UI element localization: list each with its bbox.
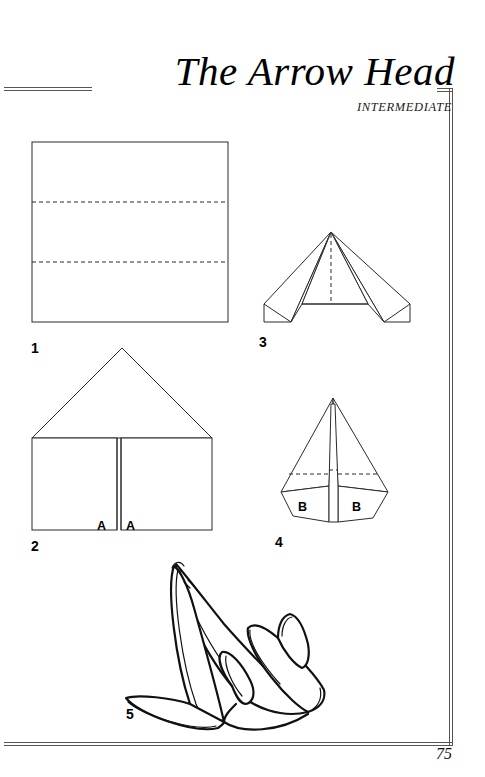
step-2-diagram	[30, 344, 230, 534]
figure-step-2	[30, 344, 230, 534]
page-number: 75	[396, 745, 452, 763]
step-number-5: 5	[126, 706, 134, 722]
center-curl-tail	[224, 704, 236, 722]
frame-border-bottom	[4, 742, 452, 746]
figure-step-3	[258, 228, 418, 328]
right-panel	[121, 438, 212, 530]
origami-instruction-page: The Arrow Head INTERMEDIATE 1 A A 2	[0, 0, 485, 777]
step-number-3: 3	[259, 334, 267, 350]
fold-label-a-left: A	[97, 519, 106, 533]
step-number-4: 4	[275, 534, 283, 550]
step-5-diagram	[112, 552, 342, 734]
figure-step-1	[30, 140, 230, 326]
step-number-2: 2	[31, 538, 39, 554]
figure-step-5	[112, 552, 342, 734]
difficulty-label: INTERMEDIATE	[0, 100, 452, 115]
right-wing	[333, 398, 388, 492]
fold-label-b-right: B	[352, 500, 361, 514]
figure-step-4	[272, 394, 397, 524]
page-title: The Arrow Head	[0, 48, 455, 94]
roof-triangle	[32, 348, 212, 438]
napkin-square	[32, 142, 228, 322]
base-contact-edge	[224, 714, 308, 730]
right-lower-flap	[338, 486, 388, 522]
left-panel	[32, 438, 117, 530]
fold-label-a-right: A	[126, 519, 135, 533]
frame-border-right	[449, 88, 453, 746]
step-1-diagram	[30, 140, 230, 326]
fold-label-b-left: B	[298, 500, 307, 514]
step-4-diagram	[272, 394, 397, 524]
step-3-diagram	[258, 228, 418, 328]
left-wing	[281, 398, 333, 492]
